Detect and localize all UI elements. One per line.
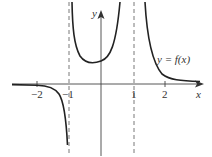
tick-label-neg1: −1 — [62, 88, 74, 100]
y-axis-label: y — [91, 7, 97, 19]
tick-label-2: 2 — [162, 88, 168, 100]
curve-label: y = f(x) — [156, 53, 190, 66]
function-graph: −2 −1 1 2 x y y = f(x) — [0, 0, 212, 157]
x-axis-label: x — [195, 88, 201, 100]
tick-label-neg2: −2 — [31, 88, 43, 100]
tick-label-1: 1 — [131, 88, 137, 100]
curve-right-branch — [145, 2, 200, 82]
